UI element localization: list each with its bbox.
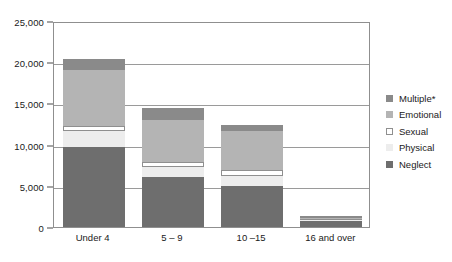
bar-segment (142, 177, 204, 227)
bar-segment (221, 176, 283, 186)
bar-segment (221, 170, 283, 176)
bar-segment (63, 70, 125, 125)
legend-swatch-icon (386, 128, 393, 135)
y-axis: 05,00010,00015,00020,00025,000 (0, 22, 53, 228)
bar-segment (142, 120, 204, 161)
bar-group (142, 21, 204, 227)
bar-segment (300, 221, 362, 227)
legend-label: Sexual (399, 127, 428, 137)
legend-item[interactable]: Emotional (386, 107, 441, 124)
bar-segment (63, 59, 125, 71)
y-tick-label: 0 (39, 223, 44, 234)
bar-segment (221, 131, 283, 170)
legend-swatch-icon (386, 111, 393, 118)
plot-area (53, 22, 370, 228)
bar-segment (221, 125, 283, 132)
legend-swatch-icon (386, 95, 393, 102)
legend: Multiple*EmotionalSexualPhysicalNeglect (386, 90, 441, 173)
bar-group (300, 21, 362, 227)
legend-swatch-icon (386, 161, 393, 168)
legend-label: Physical (399, 143, 434, 153)
legend-item[interactable]: Physical (386, 140, 441, 157)
legend-label: Multiple* (399, 94, 435, 104)
x-axis-labels: Under 45 – 910 –1516 and over (53, 232, 370, 248)
bar-segment (142, 108, 204, 120)
legend-label: Neglect (399, 160, 431, 170)
legend-label: Emotional (399, 110, 441, 120)
bar-segment (63, 126, 125, 132)
bar-segment (142, 167, 204, 176)
bar-segment (63, 131, 125, 147)
bar-group (221, 21, 283, 227)
legend-swatch-icon (386, 144, 393, 151)
x-tick-label: 10 –15 (237, 232, 266, 243)
x-tick-label: 16 and over (305, 232, 355, 243)
y-tick-label: 5,000 (20, 181, 44, 192)
bar-segment (221, 186, 283, 227)
x-tick-label: 5 – 9 (161, 232, 182, 243)
y-tick-label: 15,000 (14, 99, 44, 110)
legend-item[interactable]: Sexual (386, 123, 441, 140)
legend-item[interactable]: Multiple* (386, 90, 441, 107)
bar-segment (142, 162, 204, 168)
bar-group (63, 21, 125, 227)
bar-segment (63, 147, 125, 227)
y-tick-label: 20,000 (14, 58, 44, 69)
bar-segment (300, 216, 362, 218)
stacked-bar-chart: 05,00010,00015,00020,00025,000 Under 45 … (0, 0, 452, 262)
x-tick-label: Under 4 (76, 232, 110, 243)
y-tick-label: 25,000 (14, 17, 44, 28)
y-tick-label: 10,000 (14, 140, 44, 151)
bars-layer (54, 23, 369, 227)
legend-item[interactable]: Neglect (386, 156, 441, 173)
